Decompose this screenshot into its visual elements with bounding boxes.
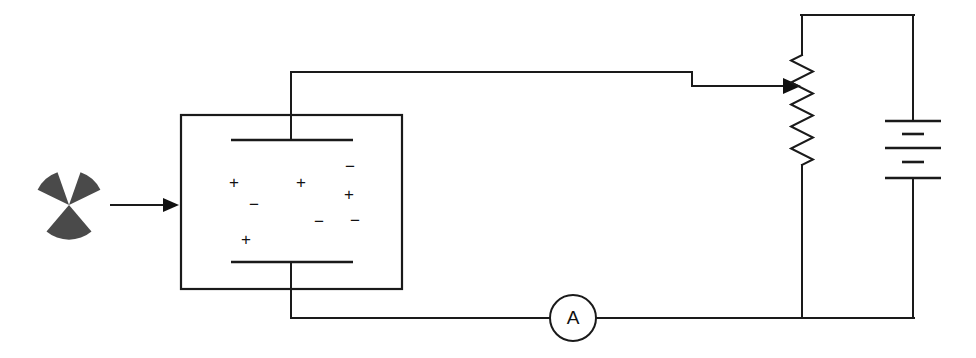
ion-charge: − <box>350 211 360 230</box>
ammeter-label: A <box>567 307 580 328</box>
ion-charge: + <box>344 185 354 204</box>
ion-charge: + <box>296 173 306 192</box>
trefoil-blade-upper-left <box>38 172 69 205</box>
variable-resistor <box>791 15 813 318</box>
ion-charge: + <box>229 173 239 192</box>
top-wire <box>291 72 789 86</box>
circuit-diagram: + − + − − + − + <box>0 0 976 358</box>
beam-arrow-icon <box>110 198 179 212</box>
ion-charges-group: + − + − − + − + <box>229 157 360 249</box>
radiation-trefoil-icon <box>38 172 101 239</box>
trefoil-blade-bottom <box>47 205 92 240</box>
battery-cells <box>885 15 941 318</box>
ion-charge: − <box>249 195 259 214</box>
resistor-zigzag <box>791 55 813 165</box>
ion-charge: − <box>345 157 355 176</box>
ammeter: A <box>550 295 596 341</box>
circuit-svg-canvas: + − + − − + − + <box>0 0 976 358</box>
ion-charge: + <box>241 230 251 249</box>
trefoil-blade-upper-right <box>69 172 100 205</box>
beam-arrow-head <box>163 198 179 212</box>
ion-charge: − <box>314 212 324 231</box>
